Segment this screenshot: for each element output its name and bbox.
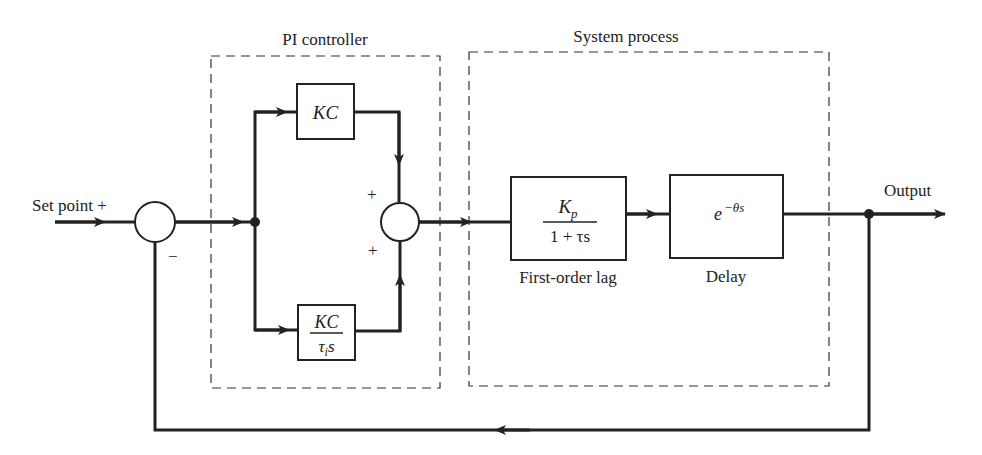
system-process-label: System process <box>573 27 678 46</box>
delay-block <box>670 175 783 258</box>
pi-sum-top-plus: + <box>367 185 377 204</box>
block-diagram: PI controller System process Set point +… <box>0 0 982 455</box>
delay-caption: Delay <box>706 267 747 286</box>
pi-sum-bottom-plus: + <box>368 241 378 260</box>
first-order-lag-caption: First-order lag <box>519 268 617 287</box>
proportional-gain-text: KC <box>312 102 339 123</box>
feedback-minus-sign: − <box>168 247 178 266</box>
integral-numerator: KC <box>313 312 339 332</box>
error-summing-junction <box>135 202 175 242</box>
pi-summing-junction <box>381 203 419 241</box>
proportional-input-wire <box>255 112 297 222</box>
pi-controller-label: PI controller <box>282 30 368 49</box>
output-label: Output <box>884 181 932 200</box>
first-order-lag-block <box>511 177 626 260</box>
integral-input-wire <box>255 222 298 330</box>
set-point-label: Set point + <box>32 196 107 215</box>
lag-denominator: 1 + τs <box>550 227 590 246</box>
